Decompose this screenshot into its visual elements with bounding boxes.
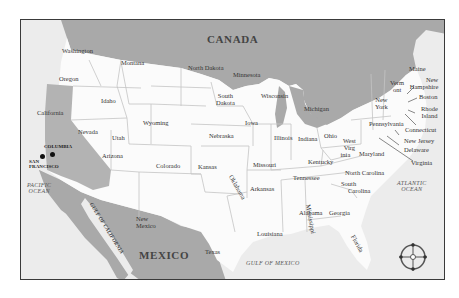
label-connecticut: Connecticut xyxy=(405,127,436,134)
label-north-carolina: North Carolina xyxy=(345,170,384,177)
label-delaware: Delaware xyxy=(404,147,429,154)
label-pennsylvania: Pennsylvania xyxy=(369,121,404,128)
label-indiana: Indiana xyxy=(298,136,318,143)
label-mexico: MEXICO xyxy=(139,250,189,262)
label-california: California xyxy=(37,110,63,117)
west-virginia-line3: inia xyxy=(335,152,356,159)
label-idaho: Idaho xyxy=(101,98,116,105)
label-michigan: Michigan xyxy=(304,106,329,113)
label-montana: Montana xyxy=(121,60,144,67)
label-texas: Texas xyxy=(205,249,220,256)
rhode-island-line2: Island xyxy=(421,113,438,120)
label-columbia: COLUMBIA xyxy=(44,144,72,149)
label-washington: Washington xyxy=(62,48,93,55)
label-georgia: Georgia xyxy=(329,210,350,217)
label-south-dakota: South Dakota xyxy=(216,93,235,107)
label-alabama: Alabama xyxy=(299,210,322,217)
label-utah: Utah xyxy=(112,135,125,142)
us-map: CANADA MEXICO PACIFIC OCEAN ATLANTIC OCE… xyxy=(20,19,445,280)
label-pacific-ocean: PACIFIC OCEAN xyxy=(27,182,51,195)
label-kentucky: Kentucky xyxy=(308,159,333,166)
label-oregon: Oregon xyxy=(59,76,79,83)
label-kansas: Kansas xyxy=(198,164,217,171)
label-new-jersey: New Jersey xyxy=(404,138,434,145)
label-tennessee: Tennessee xyxy=(293,175,320,182)
new-hampshire-line2: Hampshire xyxy=(406,84,438,91)
label-new-mexico: New Mexico xyxy=(136,216,156,230)
label-wisconsin: Wisconsin xyxy=(261,93,288,100)
label-missouri: Missouri xyxy=(253,162,276,169)
south-carolina-line2: Carolina xyxy=(341,188,370,195)
label-arkansas: Arkansas xyxy=(250,186,274,193)
label-san-francisco: SAN FRANCISCO xyxy=(29,159,59,170)
label-minnesota: Minnesota xyxy=(233,72,260,79)
atlantic-line2: OCEAN xyxy=(397,186,427,192)
label-illinois: Illinois xyxy=(274,135,292,142)
new-york-line2: York xyxy=(375,104,388,111)
label-west-virginia: West Virg inia xyxy=(343,138,356,158)
label-new-york: New York xyxy=(375,97,388,111)
pacific-line2: OCEAN xyxy=(27,188,51,194)
label-vermont: Verm ont xyxy=(390,80,404,94)
label-north-dakota: North Dakota xyxy=(188,65,224,72)
label-maine: Maine xyxy=(409,66,426,73)
label-iowa: Iowa xyxy=(245,120,258,127)
sf-line2: FRANCISCO xyxy=(29,164,59,169)
label-ohio: Ohio xyxy=(324,133,337,140)
label-nevada: Nevada xyxy=(78,129,98,136)
new-mexico-line2: Mexico xyxy=(136,223,156,230)
label-atlantic-ocean: ATLANTIC OCEAN xyxy=(397,180,427,193)
label-new-hampshire: New Hampshire xyxy=(406,77,438,91)
label-virginia: Virginia xyxy=(411,160,432,167)
label-louisiana: Louisiana xyxy=(257,231,283,238)
south-dakota-line2: Dakota xyxy=(216,100,235,107)
label-boston-text: Boston xyxy=(419,94,437,101)
label-nebraska: Nebraska xyxy=(209,133,234,140)
label-arizona: Arizona xyxy=(102,153,123,160)
label-rhode-island: Rhode Island xyxy=(421,106,438,120)
city-dot-columbia xyxy=(50,152,55,157)
label-wyoming: Wyoming xyxy=(143,120,169,127)
label-south-carolina: South Carolina xyxy=(341,181,370,195)
vermont-line2: ont xyxy=(390,87,404,94)
label-colorado: Colorado xyxy=(156,163,180,170)
label-canada: CANADA xyxy=(207,34,258,46)
label-maryland: Maryland xyxy=(359,151,384,158)
label-gulf-of-mexico: GULF OF MEXICO xyxy=(246,260,300,266)
